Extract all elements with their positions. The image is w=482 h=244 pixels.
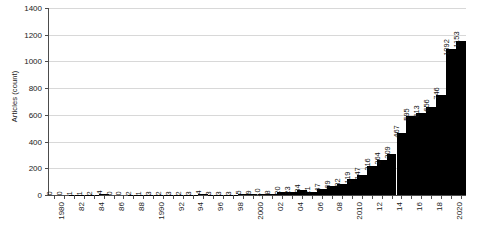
bar[interactable] [436, 95, 446, 195]
bar-value-label: 0 [45, 191, 54, 198]
bar[interactable] [456, 41, 466, 195]
x-axis-tick [262, 195, 263, 199]
x-axis-label: 02 [276, 202, 285, 211]
x-axis-label: 08 [335, 202, 344, 211]
bar-value-label: 656 [422, 100, 431, 116]
bar-value-label: 3 [214, 191, 223, 198]
bar-value-label: 1 [134, 191, 143, 198]
bar-slot[interactable]: 21 [307, 8, 317, 195]
bar-value-label: 3 [144, 191, 153, 198]
x-axis-label: 88 [137, 202, 146, 211]
x-axis-label: 2010 [355, 202, 364, 220]
bar-slot[interactable]: 3 [218, 8, 228, 195]
x-axis-label: 1990 [157, 202, 166, 220]
bar-slot[interactable]: 0 [59, 8, 69, 195]
x-axis-tick [223, 195, 224, 199]
x-axis-label: 86 [117, 202, 126, 211]
bar-slot[interactable]: 3 [228, 8, 238, 195]
bar-slot[interactable]: 1 [69, 8, 79, 195]
bar-slot[interactable]: 8 [267, 8, 277, 195]
bar-value-label: 1153 [452, 31, 461, 50]
y-axis-label: 1400 [24, 4, 42, 13]
bar-slot[interactable]: 3 [188, 8, 198, 195]
bar-value-label: 8 [263, 190, 272, 197]
x-axis-tick [114, 195, 115, 199]
x-axis-tick [253, 195, 254, 199]
x-axis-tick [312, 195, 313, 199]
bar-value-label: 23 [283, 186, 292, 197]
bar-slot[interactable]: 82 [337, 8, 347, 195]
x-axis-tick [173, 195, 174, 199]
bar-slot[interactable]: 0 [109, 8, 119, 195]
bar-slot[interactable]: 2 [178, 8, 188, 195]
bar-value-label: 467 [392, 125, 401, 141]
x-axis-tick [74, 195, 75, 199]
x-axis-tick [84, 195, 85, 199]
bar-slot[interactable]: 264 [377, 8, 387, 195]
bar-value-label: 216 [363, 158, 372, 174]
x-axis-tick [451, 195, 452, 199]
x-axis-tick [392, 195, 393, 199]
bar-slot[interactable]: 4 [99, 8, 109, 195]
bar-slot[interactable]: 4 [198, 8, 208, 195]
x-axis-tick [362, 195, 363, 199]
bar[interactable] [446, 49, 456, 195]
x-axis-tick [332, 195, 333, 199]
bar[interactable] [426, 107, 436, 195]
x-axis-label: 18 [435, 202, 444, 211]
bar-slot[interactable]: 3 [168, 8, 178, 195]
bar-slot[interactable]: 47 [317, 8, 327, 195]
bar-value-label: 264 [373, 152, 382, 168]
x-axis-tick [163, 195, 164, 199]
bar-value-label: 2 [174, 191, 183, 198]
bar-value-label: 0 [55, 191, 64, 198]
x-axis-tick [203, 195, 204, 199]
bar-slot[interactable]: 69 [327, 8, 337, 195]
bar-slot[interactable]: 2 [158, 8, 168, 195]
bar-slot[interactable]: 3 [148, 8, 158, 195]
bar-series: 0011240021323234333591082023342147698211… [49, 8, 466, 195]
x-axis-tick [372, 195, 373, 199]
bar[interactable] [397, 133, 407, 195]
bar-slot[interactable]: 595 [406, 8, 416, 195]
bar-slot[interactable]: 1153 [456, 8, 466, 195]
bar-value-label: 1 [75, 191, 84, 198]
x-axis-tick [143, 195, 144, 199]
articles-per-year-bar-chart: Articles (count) 02004006008001000120014… [0, 0, 482, 244]
bar-value-label: 69 [323, 180, 332, 191]
x-axis-label: 82 [77, 202, 86, 211]
x-axis-tick [153, 195, 154, 199]
bar[interactable] [416, 113, 426, 195]
bar-slot[interactable]: 467 [397, 8, 407, 195]
bar-slot[interactable]: 20 [277, 8, 287, 195]
bar-slot[interactable]: 3 [208, 8, 218, 195]
bar-value-label: 5 [234, 191, 243, 198]
x-axis-label: 94 [196, 202, 205, 211]
bar-slot[interactable]: 5 [238, 8, 248, 195]
bar-slot[interactable]: 0 [49, 8, 59, 195]
bar-slot[interactable]: 9 [248, 8, 258, 195]
y-axis-label: 0 [38, 191, 42, 200]
x-axis-tick [302, 195, 303, 199]
bar-slot[interactable]: 0 [119, 8, 129, 195]
bar-slot[interactable]: 10 [258, 8, 268, 195]
x-axis-tick [401, 195, 402, 199]
bar-slot[interactable]: 2 [89, 8, 99, 195]
x-axis-tick [193, 195, 194, 199]
bar-value-label: 2 [154, 191, 163, 198]
bar-value-label: 9 [244, 190, 253, 197]
bar[interactable] [406, 116, 416, 195]
x-axis-tick [441, 195, 442, 199]
bar-slot[interactable]: 1 [79, 8, 89, 195]
bar-value-label: 2 [85, 191, 94, 198]
bar-slot[interactable]: 34 [297, 8, 307, 195]
bar-slot[interactable]: 23 [287, 8, 297, 195]
bar-slot[interactable]: 2 [128, 8, 138, 195]
bar-value-label: 47 [313, 183, 322, 194]
bar-slot[interactable]: 309 [387, 8, 397, 195]
bar-value-label: 147 [353, 168, 362, 184]
bar-value-label: 3 [164, 191, 173, 198]
bar-slot[interactable]: 746 [436, 8, 446, 195]
bar-value-label: 20 [273, 187, 282, 198]
bar-slot[interactable]: 1 [138, 8, 148, 195]
